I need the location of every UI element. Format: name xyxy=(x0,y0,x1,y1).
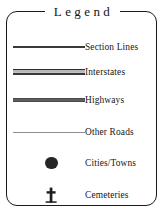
other-roads-symbol xyxy=(0,119,85,145)
filled-circle-icon xyxy=(45,157,58,170)
map-legend-panel: Legend Section Lines Interstates Highway… xyxy=(0,0,165,215)
legend-label-other-roads: Other Roads xyxy=(85,127,134,138)
legend-row-section-lines: Section Lines xyxy=(0,34,165,60)
legend-label-highways: Highways xyxy=(85,95,124,106)
thick-line-icon xyxy=(13,98,85,103)
cities-towns-symbol xyxy=(0,150,85,176)
section-lines-symbol xyxy=(0,34,85,60)
legend-row-interstates: Interstates xyxy=(0,59,165,85)
hairline-icon xyxy=(13,132,85,133)
highways-symbol xyxy=(0,87,85,113)
legend-label-cities-towns: Cities/Towns xyxy=(85,158,136,169)
cased-double-line-icon xyxy=(13,69,85,74)
legend-label-cemeteries: Cemeteries xyxy=(85,190,129,201)
cross-icon xyxy=(44,187,58,203)
legend-entries: Section Lines Interstates Highways Other… xyxy=(0,0,165,215)
legend-row-cemeteries: Cemeteries xyxy=(0,182,165,208)
legend-row-cities-towns: Cities/Towns xyxy=(0,150,165,176)
thin-line-icon xyxy=(13,46,85,47)
cemeteries-symbol xyxy=(0,182,85,208)
legend-row-other-roads: Other Roads xyxy=(0,119,165,145)
legend-label-section-lines: Section Lines xyxy=(85,42,138,53)
interstates-symbol xyxy=(0,59,85,85)
legend-row-highways: Highways xyxy=(0,87,165,113)
legend-label-interstates: Interstates xyxy=(85,67,125,78)
